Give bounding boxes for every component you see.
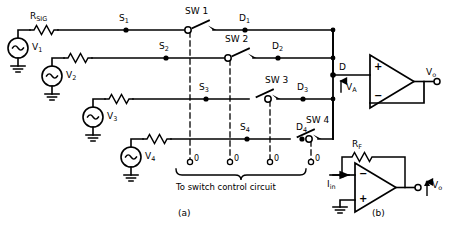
sw1-blade — [193, 21, 210, 29]
label-d4: D4 — [296, 123, 307, 133]
ctrl-terminal-2 — [227, 159, 232, 164]
label-d2: D2 — [272, 42, 283, 52]
opamp-b-feedback-rf — [342, 153, 405, 188]
label-d1: D1 — [239, 14, 250, 24]
sw2-pole-contact — [225, 55, 231, 61]
bus-dot-3 — [331, 97, 336, 102]
label-v3: V3 — [107, 112, 117, 122]
v3-top-lead — [93, 99, 105, 107]
ground-v2 — [45, 94, 59, 100]
ctrl-terminal-1 — [187, 159, 192, 164]
label-vo-a: Vo — [426, 68, 436, 78]
source-v2-sine — [47, 74, 58, 78]
sw4-pole-contact — [306, 136, 312, 142]
label-ctrl-2: 0 — [234, 155, 239, 163]
node-d1 — [242, 27, 247, 32]
bus-dot-d — [330, 72, 336, 78]
bus-dot-1 — [331, 28, 336, 33]
label-sw4[interactable]: SW 4 — [306, 116, 329, 125]
label-rsig: RSIG — [30, 12, 47, 22]
label-s3: S3 — [199, 83, 209, 93]
v4-top-lead — [131, 139, 143, 147]
node-d4 — [299, 136, 304, 141]
resistor-rsig — [30, 26, 58, 35]
label-iin: Iin — [327, 180, 336, 190]
node-s2 — [163, 55, 168, 60]
label-d3: D3 — [297, 83, 308, 93]
label-v2: V2 — [66, 71, 76, 81]
ctrl-terminal-4 — [308, 159, 313, 164]
ground-v3 — [86, 135, 100, 141]
label-s2: S2 — [159, 42, 169, 52]
caption-panel-a: (a) — [178, 209, 191, 218]
opamp-b-noninv-wire — [340, 200, 355, 207]
node-s3 — [203, 96, 208, 101]
v2-top-lead — [52, 58, 64, 66]
node-inv-input-b — [339, 172, 344, 177]
source-v4-sine — [126, 155, 137, 159]
sw3-pole-contact — [265, 96, 271, 102]
figure-root: RSIG V1 V2 V3 V4 S1 S2 S3 S4 SW 1 SW 2 S… — [0, 0, 449, 232]
label-v4: V4 — [145, 152, 155, 162]
source-v1-sine — [13, 46, 24, 50]
control-brace — [176, 169, 306, 180]
label-sw1[interactable]: SW 1 — [185, 7, 208, 16]
sw2-blade — [233, 49, 250, 57]
label-ctrl-3: 0 — [274, 155, 279, 163]
node-d2 — [275, 55, 280, 60]
resistor-r3 — [105, 95, 133, 104]
opamp-a-plus-sign: + — [374, 62, 382, 72]
label-bus-d: D — [339, 63, 346, 72]
label-sw2[interactable]: SW 2 — [225, 35, 248, 44]
switch-control-caption: To switch control circuit — [176, 183, 276, 192]
opamp-a-out-terminal — [434, 79, 440, 85]
label-s4: S4 — [240, 123, 250, 133]
source-v3-sine — [88, 115, 99, 119]
label-ctrl-4: 0 — [315, 155, 320, 163]
opamp-a-minus-sign: − — [374, 91, 382, 101]
opamp-b-plus-sign: + — [359, 194, 367, 204]
label-ctrl-1: 0 — [194, 155, 199, 163]
ctrl-terminal-3 — [267, 159, 272, 164]
node-s4 — [244, 136, 249, 141]
bus-dot-2 — [331, 56, 336, 61]
label-s1: S1 — [119, 14, 129, 24]
v1-top-lead — [18, 30, 30, 38]
sw3-blade — [257, 90, 274, 98]
caption-panel-b: (b) — [372, 209, 385, 218]
ground-v4 — [124, 175, 138, 181]
ground-opamp-b — [333, 207, 347, 213]
node-s1 — [123, 27, 128, 32]
control-terminal-contacts — [187, 159, 313, 164]
resistor-r2 — [64, 54, 92, 63]
label-rf: RF — [352, 140, 362, 150]
ground-v1 — [11, 66, 25, 72]
opamp-b-out-terminal — [415, 185, 421, 191]
label-v1: V1 — [32, 43, 42, 53]
label-va: VA — [346, 83, 357, 93]
label-sw3[interactable]: SW 3 — [265, 76, 288, 85]
sw1-pole-contact — [185, 27, 191, 33]
node-d3 — [300, 96, 305, 101]
opamp-b-minus-sign: − — [359, 169, 367, 179]
vo-b-arrow — [422, 178, 436, 198]
resistor-r4 — [143, 135, 171, 144]
